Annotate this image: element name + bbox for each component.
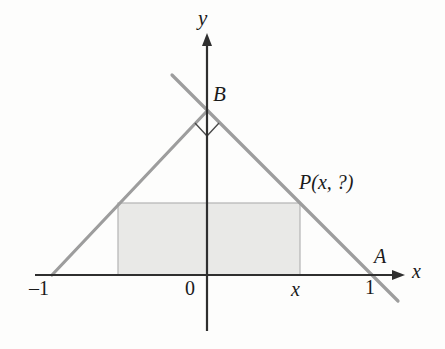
y-axis-label: y bbox=[198, 8, 207, 29]
figure-canvas bbox=[0, 0, 445, 349]
tick-label-zero: 0 bbox=[185, 278, 195, 298]
point-a-label: A bbox=[374, 246, 386, 266]
inscribed-rectangle bbox=[118, 203, 300, 275]
tick-label-x: x bbox=[291, 279, 300, 299]
tick-label-neg-one: –1 bbox=[29, 278, 49, 298]
x-axis-label: x bbox=[412, 261, 421, 281]
point-p-label: P(x, ?) bbox=[299, 172, 353, 192]
apex-label-b: B bbox=[213, 84, 226, 105]
math-figure: y B P(x, ?) A x –1 0 x 1 bbox=[0, 0, 445, 349]
x-axis-arrowhead-icon bbox=[392, 270, 405, 280]
tick-label-one: 1 bbox=[365, 277, 375, 297]
y-axis-arrowhead-icon bbox=[202, 33, 212, 46]
